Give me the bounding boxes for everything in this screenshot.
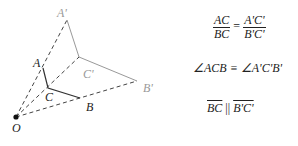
label-a-prime: A' [57, 6, 67, 21]
label-c-prime: C' [83, 67, 94, 82]
fraction-ac-bc: ACBC [213, 14, 230, 41]
label-o: O [12, 121, 21, 136]
fraction-a-prime-c-prime: A'C'B'C' [243, 14, 265, 41]
ray-o-b-prime [16, 81, 137, 117]
segment-b-prime-c-prime: B'C' [233, 101, 253, 115]
angle-congruence: ∠ACB ≡ ∠A'C'B' [193, 61, 282, 76]
segment-bc: BC [207, 101, 222, 115]
label-c: C [45, 90, 53, 105]
parallel-statement: BC || B'C' [207, 101, 254, 116]
label-b: B [86, 100, 93, 115]
ray-o-a-prime [16, 20, 67, 117]
center-point-o [13, 114, 18, 119]
label-b-prime: B' [143, 81, 153, 96]
image-angle [67, 20, 137, 81]
ratio-equation: ACBC = A'C'B'C' [213, 14, 266, 41]
label-a: A [33, 56, 40, 71]
